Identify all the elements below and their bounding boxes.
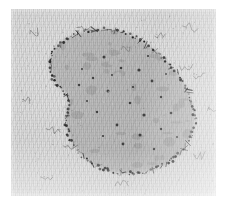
thread-stroke — [207, 105, 216, 112]
speckle — [90, 66, 91, 67]
boundary-bead — [143, 41, 145, 43]
speckle — [190, 195, 191, 196]
interior-dot — [153, 148, 155, 150]
mottle-blob — [104, 127, 115, 135]
mottle-blob — [89, 149, 99, 153]
boundary-bead — [129, 174, 131, 176]
speckle — [90, 40, 91, 41]
boundary-bead — [169, 64, 171, 66]
speckle — [107, 53, 108, 54]
speckle — [149, 194, 150, 195]
mottle-blob — [81, 77, 87, 81]
boundary-bead — [184, 85, 186, 87]
speckle — [209, 160, 210, 161]
speckle — [73, 51, 74, 52]
mottle-blob — [66, 41, 75, 49]
speckle — [108, 91, 110, 93]
speckle — [27, 65, 28, 66]
speckle — [82, 86, 83, 87]
mottle-blob — [135, 95, 141, 104]
mottle-blob — [179, 159, 183, 168]
speckle — [193, 31, 194, 32]
mottle-blob — [148, 162, 158, 165]
speckle — [83, 113, 84, 114]
interior-dot — [122, 143, 125, 146]
speckle — [127, 89, 129, 91]
speckle — [176, 26, 177, 27]
speckle — [125, 191, 126, 192]
speckle — [178, 56, 179, 57]
speckle — [40, 154, 41, 155]
boundary-bead — [53, 79, 56, 82]
speckle — [115, 130, 116, 131]
mottle-blob — [168, 28, 177, 37]
micrograph-figure — [0, 0, 237, 211]
speckle — [70, 12, 71, 13]
speckle — [71, 59, 72, 60]
speckle — [210, 166, 211, 167]
mottle-blob — [60, 73, 69, 76]
speckle — [109, 169, 110, 170]
boundary-bead — [116, 29, 119, 32]
speckle — [162, 181, 163, 182]
boundary-bead — [53, 75, 56, 78]
speckle — [98, 147, 99, 148]
mottle-blob — [95, 31, 101, 40]
boundary-bead — [177, 72, 178, 73]
speckle — [17, 125, 19, 127]
mottle-blob — [155, 155, 159, 162]
speckle — [130, 35, 131, 36]
speckle — [214, 66, 215, 67]
boundary-bead — [194, 114, 196, 116]
speckle — [210, 30, 211, 31]
speckle — [174, 62, 175, 63]
thread-fragment — [115, 180, 129, 187]
thread-fragment — [182, 22, 199, 33]
boundary-bead — [101, 30, 102, 31]
speckle — [213, 104, 214, 105]
boundary-bead — [176, 152, 179, 155]
boundary-bead — [66, 108, 67, 109]
speckle — [86, 114, 87, 115]
speckle — [187, 167, 188, 168]
speckle — [114, 147, 115, 148]
speckle — [112, 60, 113, 61]
speckle — [67, 171, 68, 172]
speckle — [189, 104, 190, 105]
speckle — [89, 146, 90, 147]
speckle — [77, 137, 78, 138]
mottle-blob — [189, 47, 201, 55]
speckle — [121, 64, 122, 65]
thread-fragment — [46, 126, 61, 134]
thread-dot — [51, 175, 52, 176]
mottle-blob — [47, 34, 57, 40]
speckle — [66, 105, 67, 106]
mottle-blob — [168, 117, 178, 122]
speckle — [105, 138, 106, 139]
speckle — [142, 184, 143, 185]
boundary-bead — [62, 41, 65, 44]
speckle — [143, 19, 144, 20]
speckle — [26, 30, 28, 32]
speckle — [38, 158, 39, 159]
speckle — [144, 193, 146, 195]
boundary-bead — [192, 126, 195, 129]
speckle — [50, 110, 51, 111]
speckle — [167, 59, 168, 60]
mottle-blob — [197, 50, 202, 58]
speckle — [192, 91, 193, 92]
boundary-bead — [192, 135, 193, 136]
speckle — [173, 28, 174, 29]
thread-stroke — [46, 126, 61, 134]
boundary-bead — [165, 58, 166, 59]
boundary-bead — [65, 122, 66, 123]
speckle — [37, 172, 38, 173]
mottle-blob — [153, 118, 159, 123]
boundary-bead — [68, 128, 70, 130]
speckle — [78, 39, 79, 40]
mottle-blob — [82, 52, 95, 57]
speckle — [65, 69, 66, 70]
speckle — [72, 123, 73, 124]
boundary-fibre-tick — [77, 31, 78, 36]
mottle-blob — [179, 162, 186, 168]
